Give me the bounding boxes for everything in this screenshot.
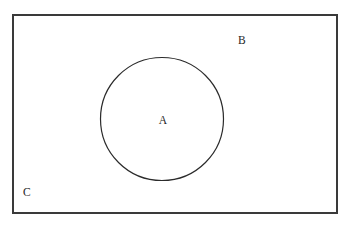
venn-diagram-graphic [0,0,351,227]
universe-rectangle [13,15,337,213]
region-b-label: B [238,35,246,47]
set-a-label: A [159,115,168,127]
venn-diagram-canvas: A B C [0,0,351,227]
universe-c-label: C [23,187,31,199]
